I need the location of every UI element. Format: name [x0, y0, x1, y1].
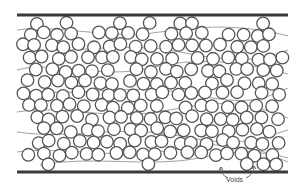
fiber-circle [251, 123, 264, 136]
fiber-circle [245, 136, 258, 149]
fiber-circle [195, 146, 208, 159]
fiber-circle [255, 87, 268, 100]
fiber-circle [110, 147, 123, 160]
fiber-circle [143, 17, 156, 30]
fiber-circle [102, 64, 115, 77]
fiber-circle [272, 113, 285, 126]
fiber-circle [124, 75, 137, 88]
fiber-circle [221, 147, 234, 160]
fiber-circle [207, 53, 220, 66]
fiber-circle [136, 28, 149, 41]
fiber-circle [255, 111, 268, 124]
fiber-circle [137, 77, 150, 90]
fiber-circle [22, 149, 35, 162]
fiber-circle [95, 99, 108, 112]
fiber-circle [74, 135, 87, 148]
fiber-circle [257, 64, 270, 77]
fiber-circle [130, 63, 143, 76]
voids-label: Voids [226, 176, 243, 183]
fiber-circle [164, 147, 177, 160]
fiber-circle [216, 86, 229, 99]
fiber-circle [46, 63, 59, 76]
fiber-circle [196, 27, 209, 40]
fiber-circle [245, 41, 258, 54]
fiber-circle [231, 86, 244, 99]
fiber-circle [134, 99, 147, 112]
fiber-circle [156, 86, 169, 99]
fiber-circle [151, 100, 164, 113]
fiber-circle [186, 110, 199, 123]
fiber-circle [237, 28, 250, 41]
fiber-circle [170, 112, 183, 125]
fiber-circle [222, 101, 235, 114]
fiber-circle [236, 123, 249, 136]
fiber-circle [256, 138, 269, 151]
fiber-circle [180, 27, 193, 40]
fiber-circle [52, 74, 65, 87]
fiber-circle [17, 87, 30, 100]
fiber-circle [66, 146, 79, 159]
fiber-circle [221, 74, 234, 87]
fiber-circle [82, 51, 95, 64]
fiber-circle [151, 53, 164, 66]
fiber-circle [35, 50, 48, 63]
fiber-circle [65, 51, 78, 64]
fiber-circle [130, 112, 143, 125]
fiber-circle [231, 41, 244, 54]
fiber-circle [72, 86, 85, 99]
fiber-circle [240, 111, 253, 124]
fiber-circle [214, 113, 227, 126]
fiber-circle [38, 122, 51, 135]
fiber-circle [241, 158, 254, 171]
fiber-circle [108, 123, 121, 136]
fiber-circle [257, 40, 270, 53]
fiber-circle [241, 63, 254, 76]
fiber-circle [93, 26, 106, 39]
fiber-circle [71, 110, 84, 123]
composite-cross-section-diagram [0, 0, 304, 189]
fiber-circle [145, 66, 158, 79]
fiber-circle [142, 158, 155, 171]
fiber-circle [185, 87, 198, 100]
fiber-circle [177, 124, 190, 137]
fiber-circle [144, 40, 157, 53]
fiber-circle [42, 134, 55, 147]
fiber-circle [270, 158, 283, 171]
fiber-circle [46, 39, 59, 52]
fiber-circle [63, 98, 76, 111]
fiber-circle [263, 125, 276, 138]
fiber-circle [103, 111, 116, 124]
fiber-circle [273, 88, 286, 101]
fiber-circle [200, 39, 213, 52]
fiber-circle [42, 158, 55, 171]
fiber-circle [272, 137, 285, 150]
fiber-circle [191, 52, 204, 65]
fiber-circle [185, 63, 198, 76]
fiber-circle [114, 89, 127, 102]
fiber-circle [214, 38, 227, 51]
fiber-circle [151, 122, 164, 135]
fiber-circle [94, 77, 107, 90]
fiber-circle [155, 135, 168, 148]
fiber-circle [266, 100, 279, 113]
fiber-circle [250, 99, 263, 112]
fiber-circle [28, 39, 41, 52]
fiber-circle [72, 38, 85, 51]
fiber-circle [160, 40, 173, 53]
fiber-circle [186, 39, 199, 52]
fiber-circle [107, 51, 120, 64]
fiber-circle [128, 134, 141, 147]
fiber-circle [21, 74, 34, 87]
fiber-circle [263, 28, 276, 41]
fiber-circle [80, 148, 93, 161]
fiber-circle [181, 146, 194, 159]
fiber-circle [276, 51, 289, 64]
fiber-circle [56, 110, 69, 123]
fiber-circle [270, 64, 283, 77]
fiber-circle [165, 28, 178, 41]
fiber-circle [206, 100, 219, 113]
fiber-circle [35, 99, 48, 112]
fiber-circle [79, 74, 92, 87]
fiber-circle [123, 146, 136, 159]
fiber-circle [172, 88, 185, 101]
